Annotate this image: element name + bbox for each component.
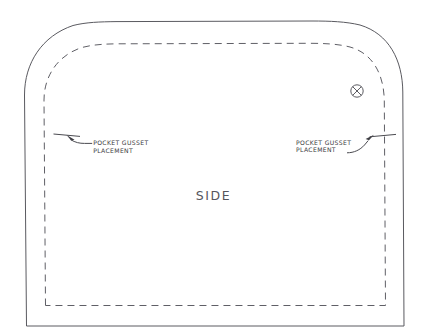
left-gusset-label-line1: POCKET GUSSET <box>93 139 148 146</box>
pattern-drawing-canvas: POCKET GUSSET PLACEMENT POCKET GUSSET PL… <box>0 0 427 336</box>
pattern-sheet: POCKET GUSSET PLACEMENT POCKET GUSSET PL… <box>0 0 427 336</box>
right-gusset-leader <box>347 134 396 152</box>
right-gusset-label-line2: PLACEMENT <box>296 146 336 153</box>
drill-hole-icon <box>351 85 363 97</box>
left-gusset-label-line2: PLACEMENT <box>93 147 133 154</box>
piece-name-label: SIDE <box>196 188 232 203</box>
stitch-line-dashed <box>44 43 386 305</box>
left-gusset-leader <box>54 134 93 143</box>
cut-line-outline <box>25 21 405 326</box>
right-gusset-label-line1: POCKET GUSSET <box>296 139 351 146</box>
right-leader-arrowhead <box>366 135 374 140</box>
